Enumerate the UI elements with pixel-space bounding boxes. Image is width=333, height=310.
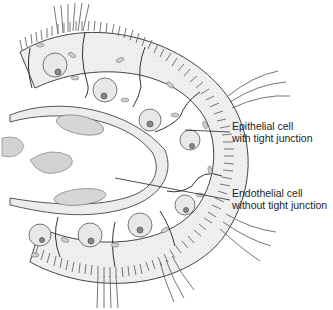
label-epithelial-cell: Epithelial cell with tight junction xyxy=(232,120,313,144)
label-endothelial-line2: without tight junction xyxy=(232,199,327,211)
label-endothelial-cell: Endothelial cell without tight junction xyxy=(232,187,327,211)
label-epithelial-line2: with tight junction xyxy=(232,132,313,144)
label-epithelial-line1: Epithelial cell xyxy=(232,120,313,132)
label-endothelial-line1: Endothelial cell xyxy=(232,187,327,199)
cell-diagram xyxy=(0,0,333,310)
